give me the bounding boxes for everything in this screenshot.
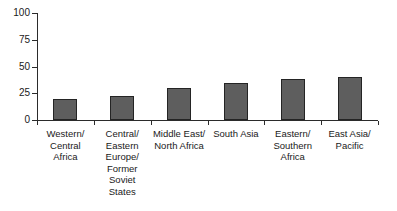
- y-tick-label: 0: [2, 115, 30, 125]
- category-label: East Asia/ Pacific: [321, 128, 378, 151]
- x-tick-mark: [378, 121, 379, 125]
- category-label: Western/ Central Africa: [37, 128, 94, 163]
- category-label: Eastern/ Southern Africa: [264, 128, 321, 163]
- category-label: South Asia: [208, 128, 265, 140]
- bar-chart: 0255075100 Western/ Central AfricaCentra…: [0, 0, 397, 211]
- bar: [110, 96, 134, 120]
- bar: [53, 99, 77, 120]
- x-tick-mark: [208, 121, 209, 125]
- category-label: Central/ Eastern Europe/ Former Soviet S…: [94, 128, 151, 197]
- y-tick-label: 100: [2, 8, 30, 18]
- y-tick-mark: [32, 67, 37, 68]
- y-axis-line: [37, 13, 38, 121]
- bar: [224, 83, 248, 120]
- y-tick-label: 50: [2, 62, 30, 72]
- category-label: Middle East/ North Africa: [151, 128, 208, 151]
- bar: [281, 79, 305, 120]
- bar: [338, 77, 362, 120]
- y-tick-mark: [32, 40, 37, 41]
- x-tick-mark: [37, 121, 38, 125]
- x-tick-mark: [321, 121, 322, 125]
- bar: [167, 88, 191, 120]
- y-tick-label: 25: [2, 88, 30, 98]
- x-tick-mark: [264, 121, 265, 125]
- x-tick-mark: [94, 121, 95, 125]
- y-tick-mark: [32, 13, 37, 14]
- x-tick-mark: [151, 121, 152, 125]
- y-tick-mark: [32, 93, 37, 94]
- y-tick-label: 75: [2, 35, 30, 45]
